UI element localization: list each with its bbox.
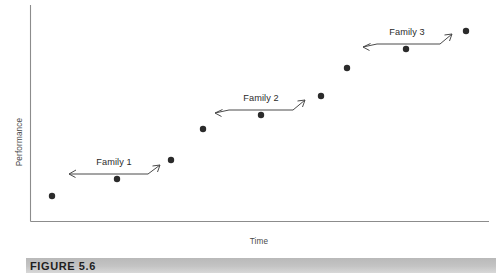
figure-caption-bar: FIGURE 5.6 bbox=[26, 258, 496, 273]
figure-caption-text: FIGURE 5.6 bbox=[30, 260, 96, 272]
data-point bbox=[403, 46, 409, 52]
x-axis-label: Time bbox=[250, 237, 269, 246]
data-point bbox=[114, 176, 120, 182]
scatter-plot: Performance Time Family 1 Family 2 bbox=[0, 0, 496, 273]
family-1-label: Family 1 bbox=[96, 157, 132, 167]
family-1-annotation: Family 1 bbox=[69, 157, 160, 178]
data-point bbox=[318, 93, 324, 99]
family-2-label: Family 2 bbox=[243, 93, 279, 103]
data-point bbox=[258, 112, 264, 118]
data-point bbox=[463, 28, 469, 34]
data-point bbox=[200, 126, 206, 132]
figure-container: Performance Time Family 1 Family 2 bbox=[0, 0, 496, 273]
data-point bbox=[344, 65, 350, 71]
y-axis-label: Performance bbox=[15, 117, 24, 166]
family-3-arrowhead-left bbox=[363, 44, 371, 51]
family-2-arrowhead-left bbox=[215, 110, 223, 117]
data-point bbox=[168, 157, 174, 163]
family-3-label: Family 3 bbox=[389, 27, 425, 37]
data-point bbox=[49, 193, 55, 199]
